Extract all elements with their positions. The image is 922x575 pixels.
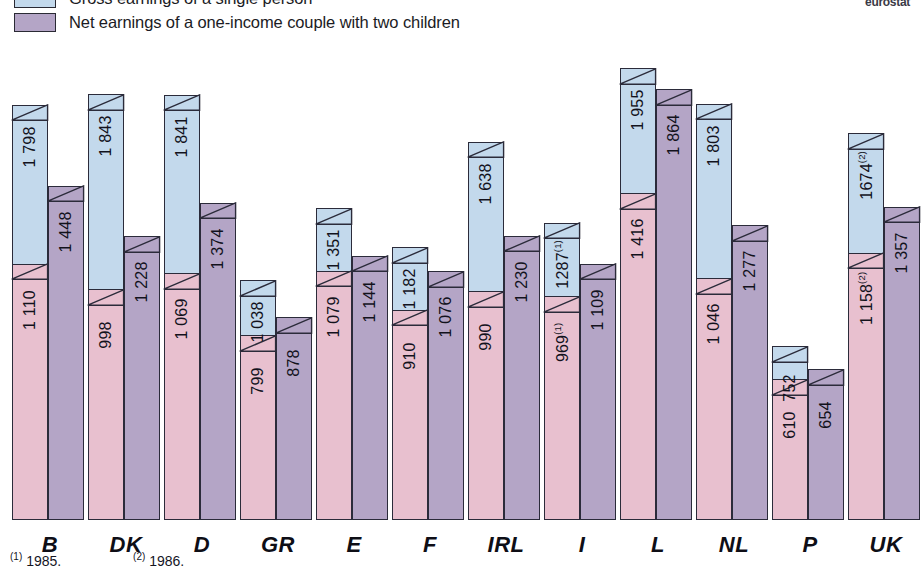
bar-value-label: 998 <box>97 322 115 349</box>
bar-cap <box>883 206 920 222</box>
bar-value-label: 1 841 <box>173 116 191 157</box>
bar-value-label: 1 277 <box>741 250 759 291</box>
bar-value-label: 1 076 <box>437 297 455 338</box>
bar-group-uk: 1674(2)1 158(2)1 357UK <box>848 58 922 520</box>
bar-cap <box>315 270 352 286</box>
bar-value-label: 1 069 <box>173 299 191 340</box>
bar-gross-l <box>620 68 656 520</box>
bar-net-couple-gr <box>276 317 312 520</box>
bar-cap <box>391 309 428 325</box>
bar-cap <box>619 68 656 84</box>
bar-cap <box>275 317 312 333</box>
footnote-2: (2) 1986. <box>133 553 218 569</box>
bar-value-label: 799 <box>249 368 267 395</box>
bar-cap <box>467 141 504 157</box>
footnote-1: (1) 1985. <box>10 553 95 569</box>
bar-cap <box>391 247 428 263</box>
eurostat-logo: eurostat <box>865 0 910 9</box>
bar-value-label: 990 <box>477 324 495 351</box>
category-label-e: E <box>316 532 392 558</box>
bar-value-label: 1 374 <box>209 228 227 269</box>
bar-cap <box>11 263 48 279</box>
category-label-f: F <box>392 532 468 558</box>
bar-cap <box>771 346 808 362</box>
footnote-1-text: 1985. <box>26 553 61 569</box>
bar-cap <box>847 133 884 149</box>
category-label-irl: IRL <box>468 532 544 558</box>
bar-gross-dk <box>88 94 124 520</box>
bar-value-label: 1674(2) <box>856 151 875 200</box>
bar-value-label: 1 798 <box>21 126 39 167</box>
bar-group-d: 1 8411 0691 374D <box>164 58 240 520</box>
bar-value-label: 1 448 <box>57 211 75 252</box>
bar-cap <box>543 296 580 312</box>
bar-cap <box>47 185 84 201</box>
bar-value-label: 1 416 <box>629 218 647 259</box>
bar-cap <box>239 280 276 296</box>
bar-value-label: 654 <box>817 401 835 428</box>
bar-value-label: 1 182 <box>401 268 419 309</box>
legend-label-gross: Gross earnings of a single person <box>69 0 312 8</box>
bar-cap <box>543 222 580 238</box>
bar-value-label: 1 158(2) <box>856 272 875 325</box>
bar-value-label: 1287(1) <box>552 240 571 289</box>
bar-value-label: 1 228 <box>133 262 151 303</box>
category-label-l: L <box>620 532 696 558</box>
bar-value-label: 878 <box>285 350 303 377</box>
category-label-uk: UK <box>848 532 922 558</box>
footnote-row: (1) 1985. (2) 1986. <box>10 551 252 569</box>
bar-value-label: 752 <box>781 375 799 402</box>
bar-value-label: 969(1) <box>552 322 571 362</box>
bar-value-label: 1 144 <box>361 281 379 322</box>
bar-group-irl: 1 6389901 230IRL <box>468 58 544 520</box>
bar-cap <box>503 235 540 251</box>
bar-group-p: 752610654P <box>772 58 848 520</box>
bar-cap <box>11 104 48 120</box>
category-label-p: P <box>772 532 848 558</box>
bar-cap <box>731 225 768 241</box>
bar-cap <box>123 236 160 252</box>
bar-group-dk: 1 8439981 228DK <box>88 58 164 520</box>
bar-chart-plot: 1 7981 1101 448B1 8439981 228DK1 8411 06… <box>0 20 922 520</box>
bar-cap <box>655 89 692 105</box>
bar-value-label: 1 038 <box>249 302 267 343</box>
bar-cap <box>315 208 352 224</box>
bar-value-label: 1 109 <box>589 289 607 330</box>
bar-value-label: 1 864 <box>665 115 683 156</box>
bar-group-e: 1 3511 0791 144E <box>316 58 392 520</box>
bar-group-f: 1 1829101 076F <box>392 58 468 520</box>
bar-group-nl: 1 8031 0461 277NL <box>696 58 772 520</box>
bar-group-b: 1 7981 1101 448B <box>12 58 88 520</box>
legend-item-gross: Gross earnings of a single person <box>14 0 714 10</box>
bar-cap <box>579 263 616 279</box>
legend-swatch-gross <box>14 0 56 8</box>
bar-group-l: 1 9551 4161 864L <box>620 58 696 520</box>
bar-group-i: 1287(1)969(1)1 109I <box>544 58 620 520</box>
bar-value-label: 610 <box>781 411 799 438</box>
bar-value-label: 1 110 <box>21 290 39 330</box>
bar-value-label: 1 351 <box>325 229 343 270</box>
bar-cap <box>467 291 504 307</box>
bar-cap <box>619 193 656 209</box>
bar-value-label: 1 079 <box>325 296 343 337</box>
bar-value-label: 1 357 <box>893 232 911 273</box>
bar-value-label: 1 955 <box>629 90 647 131</box>
footnote-2-text: 1986. <box>149 553 184 569</box>
bar-cap <box>695 278 732 294</box>
bar-cap <box>199 202 236 218</box>
bar-cap <box>87 289 124 305</box>
bar-net-couple-p <box>808 369 844 520</box>
footnote-2-marker: (2) <box>133 551 145 562</box>
bar-cap <box>87 94 124 110</box>
bar-cap <box>163 273 200 289</box>
category-label-i: I <box>544 532 620 558</box>
bar-group-gr: 1 038799878GR <box>240 58 316 520</box>
bar-value-label: 1 046 <box>705 304 723 345</box>
bar-value-label: 1 803 <box>705 125 723 166</box>
bar-value-label: 1 843 <box>97 116 115 157</box>
bar-value-label: 910 <box>401 342 419 369</box>
bar-cap <box>427 271 464 287</box>
footnote-1-marker: (1) <box>10 551 22 562</box>
bar-cap <box>351 255 388 271</box>
bar-value-label: 1 638 <box>477 163 495 204</box>
